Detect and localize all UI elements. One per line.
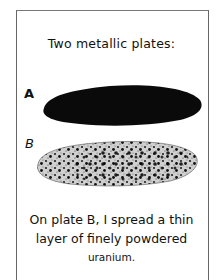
plate-a-label: A	[24, 86, 34, 101]
caption-line-1: On plate B, I spread a thin	[0, 210, 223, 229]
caption-line-3: uranium.	[0, 248, 223, 267]
plate-b-label: B	[25, 136, 34, 151]
plate-a-image	[40, 80, 205, 130]
panel-caption: On plate B, I spread a thin layer of fin…	[0, 210, 223, 267]
plate-b-image	[35, 138, 200, 190]
caption-line-2: layer of finely powdered	[0, 229, 223, 248]
panel-title: Two metallic plates:	[0, 36, 223, 51]
